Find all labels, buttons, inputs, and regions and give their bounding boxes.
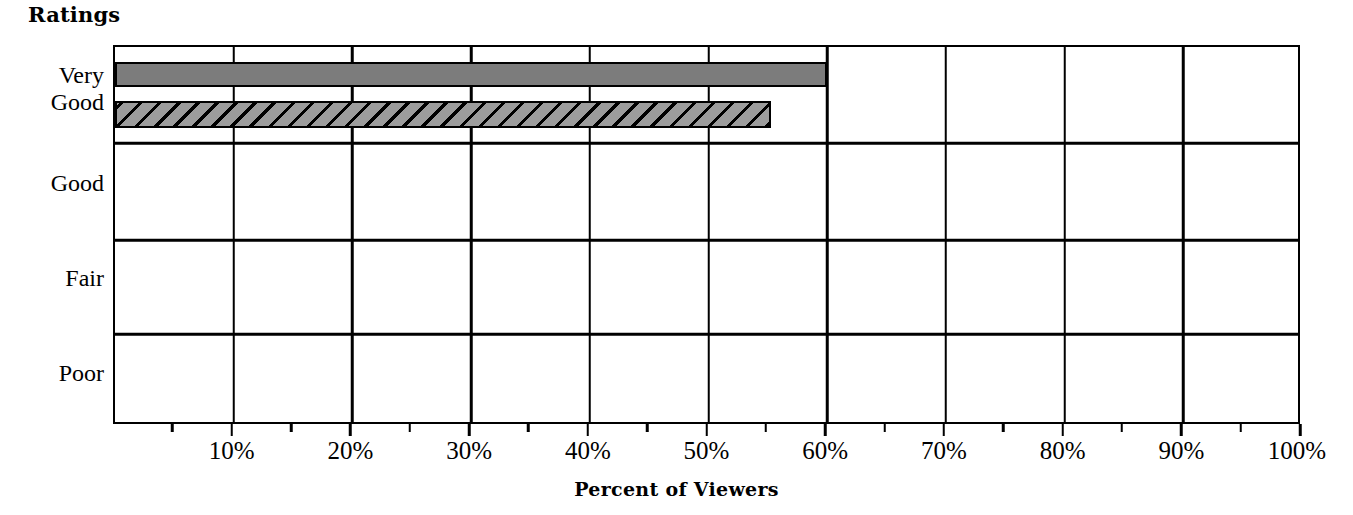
x-tick-label-30: 30% [446,436,492,466]
x-axis-title: Percent of Viewers [0,478,1353,500]
tick-minor-95 [1239,424,1242,432]
y-axis-category-labels: Very Good Good Fair Poor [0,45,104,424]
category-label-very-good: Very Good [51,62,104,116]
tick-minor-15 [290,424,293,432]
tick-major-70 [943,424,946,436]
bar-very-good-series-2 [115,101,771,128]
plot-area [113,45,1300,424]
tick-major-100 [1299,424,1302,436]
tick-minor-75 [1002,424,1005,432]
category-label-poor: Poor [59,360,104,387]
category-separator-3 [115,333,1298,336]
x-axis-ticks [113,424,1300,436]
tick-minor-65 [883,424,886,432]
x-tick-label-50: 50% [684,436,730,466]
x-tick-label-10: 10% [209,436,255,466]
gridline-x-90 [1182,47,1185,422]
tick-major-10 [230,424,233,436]
x-tick-label-80: 80% [1040,436,1086,466]
tick-major-20 [349,424,352,436]
tick-minor-55 [765,424,768,432]
tick-major-40 [587,424,590,436]
gridline-x-60 [826,47,829,422]
bar-very-good-series-1 [115,62,827,87]
x-tick-label-100: 100% [1268,436,1326,466]
category-separator-2 [115,239,1298,242]
tick-major-50 [705,424,708,436]
x-tick-label-20: 20% [327,436,373,466]
tick-minor-85 [1121,424,1124,432]
tick-major-90 [1180,424,1183,436]
category-label-good: Good [51,170,104,197]
category-separator-1 [115,142,1298,145]
gridline-x-80 [1063,47,1066,422]
x-axis-tick-labels: 10% 20% 30% 40% 50% 60% 70% 80% 90% 100% [113,436,1300,470]
category-label-fair: Fair [65,265,104,292]
tick-minor-5 [171,424,174,432]
tick-major-30 [468,424,471,436]
tick-minor-45 [646,424,649,432]
tick-minor-35 [527,424,530,432]
x-tick-label-90: 90% [1158,436,1204,466]
x-tick-label-40: 40% [565,436,611,466]
x-tick-label-70: 70% [921,436,967,466]
gridline-x-70 [945,47,948,422]
tick-major-60 [824,424,827,436]
tick-major-80 [1061,424,1064,436]
x-tick-label-60: 60% [802,436,848,466]
tick-minor-25 [409,424,412,432]
chart-title: Ratings [28,0,120,30]
